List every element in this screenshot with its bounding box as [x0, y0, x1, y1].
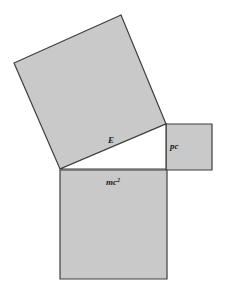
label-e: E [107, 135, 114, 145]
pythagorean-energy-diagram: E pc mc2 [0, 0, 225, 288]
label-pc: pc [169, 141, 179, 151]
label-mc2-superscript: 2 [116, 177, 120, 183]
label-mc2-base: mc [106, 177, 117, 187]
